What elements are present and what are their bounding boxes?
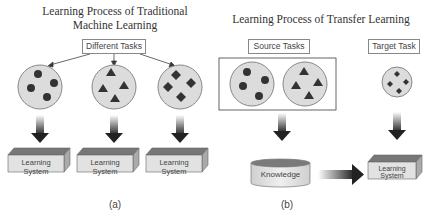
learning-system-label-b: Learning System xyxy=(366,165,418,179)
down-arrows-a xyxy=(31,115,189,143)
learning-system-label-2: Learning System xyxy=(77,158,133,176)
task-circle-circles xyxy=(18,65,62,109)
panel-a-title-line2: Machine Learning xyxy=(30,18,200,32)
task-circle-diamonds xyxy=(158,65,202,109)
caption-b: (b) xyxy=(272,199,302,210)
panel-b-title: Learning Process of Transfer Learning xyxy=(226,12,416,26)
caption-a: (a) xyxy=(100,199,130,210)
different-tasks-label: Different Tasks xyxy=(82,39,146,54)
panel-a-title: Learning Process of Traditional Machine … xyxy=(30,4,200,32)
source-circle-circles xyxy=(230,62,274,106)
panel-a-title-line1: Learning Process of Traditional xyxy=(30,4,200,18)
learning-system-label-1: Learning System xyxy=(8,158,64,176)
source-circle-triangles xyxy=(283,62,327,106)
diagram-canvas xyxy=(0,0,436,223)
source-tasks-label: Source Tasks xyxy=(248,39,310,54)
target-circle-diamonds xyxy=(382,67,412,97)
down-arrows-b xyxy=(273,112,406,141)
transfer-arrow xyxy=(318,164,364,185)
knowledge-label: Knowledge xyxy=(251,170,310,179)
learning-system-label-3: Learning System xyxy=(146,158,202,176)
task-circle-triangles xyxy=(92,65,136,109)
target-task-label: Target Task xyxy=(368,39,420,54)
